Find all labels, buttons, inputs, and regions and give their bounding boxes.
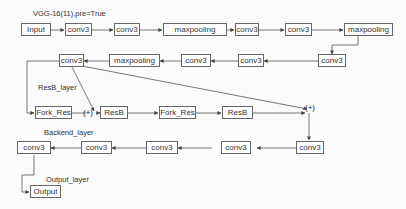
conv3-node[interactable]: conv3 [296, 141, 324, 154]
conv3-node[interactable]: conv3 [59, 54, 84, 67]
maxpooling-node[interactable]: maxpooling [109, 54, 160, 67]
conv3-node[interactable]: conv3 [318, 54, 346, 67]
conv3-node[interactable]: conv3 [181, 54, 211, 67]
conv3-node[interactable]: conv3 [114, 23, 140, 36]
conv3-node[interactable]: conv3 [238, 54, 264, 67]
diagram-canvas: VGG-16(11),pre=True ResB_layer Backend_l… [0, 0, 406, 209]
conv3-node[interactable]: conv3 [81, 141, 112, 154]
input-node[interactable]: Input [21, 23, 51, 36]
maxpooling-node[interactable]: maxpooling [163, 23, 227, 36]
fork-res-node[interactable]: Fork_Res [159, 106, 196, 119]
edge-skip-plus2 [82, 66, 307, 109]
maxpooling-node[interactable]: maxpooling [344, 23, 393, 36]
resb-node[interactable]: ResB [100, 106, 128, 119]
output-node[interactable]: Output [30, 185, 61, 198]
backend-layer-label: Backend_layer [44, 128, 94, 137]
output-layer-label: Output_layer [46, 175, 89, 184]
conv3-node[interactable]: conv3 [65, 23, 92, 36]
resb-node[interactable]: ResB [222, 106, 253, 119]
sum-node[interactable]: (+) [305, 103, 315, 112]
sum-node[interactable]: (+) [83, 108, 93, 117]
fork-res-node[interactable]: Fork_Res [35, 106, 72, 119]
resb-layer-label: ResB_layer [38, 83, 77, 92]
conv3-node[interactable]: conv3 [17, 141, 51, 154]
conv3-node[interactable]: conv3 [235, 23, 259, 36]
conv3-node[interactable]: conv3 [221, 141, 251, 154]
vgg-layer-label: VGG-16(11),pre=True [33, 9, 106, 18]
edge-maxpooling-down [332, 36, 358, 54]
conv3-node[interactable]: conv3 [146, 141, 178, 154]
conv3-node[interactable]: conv3 [285, 23, 312, 36]
